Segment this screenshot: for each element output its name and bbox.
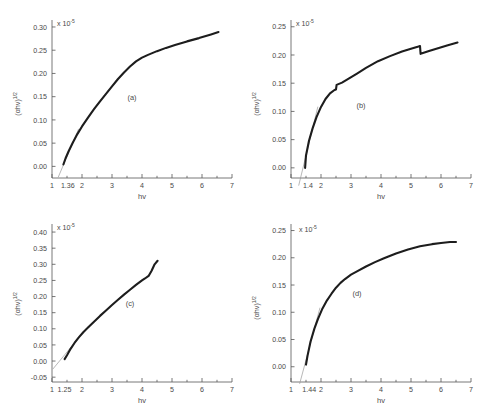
y-axis-title-c: (αhv)1/2 [12,292,22,316]
y-tick-label: 0.05 [33,342,47,350]
intercept-label-c: 1.25 [58,386,72,394]
panel-label-b: (b) [356,101,365,110]
y-tick-label: 0.40 [33,229,47,237]
x-ticks-c: 1234567 [50,378,234,394]
x-tick-label: 7 [230,182,234,190]
y-axis-title-a: (αhv)1/2 [12,92,22,116]
y-tick-label: 0.00 [272,164,286,172]
chart-svg-a: 0.000.050.100.150.200.250.30 1234567 x 1… [0,0,238,204]
chart-panel-d: 0.000.050.100.150.200.25 1234567 x 10-5 … [239,204,477,408]
y-tick-label: 0.10 [272,309,286,317]
x-ticks-d: 1234567 [289,378,473,394]
axes-d [291,224,471,382]
y-tick-label: 0.10 [272,108,286,116]
chart-panel-c: -0.050.000.050.100.150.200.250.300.350.4… [0,204,238,408]
data-curve-a [63,32,218,164]
intercept-label-b: 1.4 [303,182,313,190]
chart-svg-b: 0.000.050.100.150.200.25 1234567 x 10-5 … [239,0,477,204]
y-scale-exponent-c: x 10-5 [57,222,75,232]
y-tick-label: 0.15 [272,80,286,88]
x-tick-label: 4 [379,386,383,394]
x-axis-title-a: hv [138,192,146,201]
x-tick-label: 6 [439,386,443,394]
y-scale-exponent-d: x 10-5 [299,224,317,234]
y-tick-label: 0.00 [33,358,47,366]
y-tick-label: 0.25 [33,47,47,55]
y-axis-title-b: (αhv)1/2 [251,92,261,116]
x-tick-label: 2 [80,386,84,394]
y-tick-label: 0.25 [33,277,47,285]
x-tick-label: 3 [349,182,353,190]
data-curve-d [306,242,456,365]
y-axis-title-d: (αhv)1/2 [251,296,261,320]
x-tick-label: 6 [200,386,204,394]
x-tick-label: 4 [140,182,144,190]
x-tick-label: 1 [289,182,293,190]
x-tick-label: 1 [50,386,54,394]
y-tick-label: 0.20 [272,254,286,262]
x-tick-label: 3 [349,386,353,394]
y-tick-label: 0.15 [272,282,286,290]
x-tick-label: 2 [319,182,323,190]
y-tick-label: 0.10 [33,325,47,333]
x-tick-label: 7 [469,386,473,394]
y-tick-label: 0.15 [33,309,47,317]
data-curve-c [65,261,158,359]
chart-svg-c: -0.050.000.050.100.150.200.250.300.350.4… [0,204,238,408]
axes-b [291,20,471,178]
x-tick-label: 1 [289,386,293,394]
y-scale-exponent-a: x 10-5 [57,18,75,28]
y-tick-label: 0.05 [272,136,286,144]
x-axis-title-c: hv [138,396,146,405]
y-tick-label: 0.10 [33,117,47,125]
y-tick-label: 0.30 [33,24,47,32]
x-tick-label: 5 [409,386,413,394]
y-tick-label: 0.00 [33,163,47,171]
y-tick-label: 0.00 [272,363,286,371]
x-tick-label: 5 [409,182,413,190]
x-ticks-b: 1234567 [289,174,473,190]
y-tick-label: 0.05 [272,336,286,344]
chart-svg-d: 0.000.050.100.150.200.25 1234567 x 10-5 … [239,204,477,408]
x-ticks-a: 1234567 [50,174,234,190]
chart-panel-b: 0.000.050.100.150.200.25 1234567 x 10-5 … [239,0,477,204]
x-tick-label: 6 [439,182,443,190]
y-tick-label: 0.20 [33,293,47,301]
x-tick-label: 7 [230,386,234,394]
axes-c [52,224,232,382]
intercept-label-a: 1.36 [61,182,75,190]
chart-panel-a: 0.000.050.100.150.200.250.30 1234567 x 1… [0,0,238,204]
panel-label-c: (c) [126,299,135,308]
y-tick-label: 0.05 [33,140,47,148]
y-tick-label: 0.20 [33,70,47,78]
tauc-plot-figure: 0.000.050.100.150.200.250.30 1234567 x 1… [0,0,477,408]
y-tick-label: 0.25 [272,23,286,31]
x-tick-label: 2 [80,182,84,190]
x-tick-label: 4 [379,182,383,190]
x-tick-label: 3 [110,182,114,190]
x-tick-label: 2 [319,386,323,394]
x-tick-label: 5 [170,386,174,394]
x-tick-label: 7 [469,182,473,190]
x-tick-label: 5 [170,182,174,190]
y-scale-exponent-b: x 10-5 [296,18,314,28]
x-tick-label: 4 [140,386,144,394]
data-curve-b [305,43,457,168]
x-axis-title-b: hv [377,192,385,201]
x-tick-label: 1 [50,182,54,190]
panel-label-d: (d) [352,289,361,298]
y-tick-label: 0.25 [272,227,286,235]
intercept-label-d: 1.44 [302,386,316,394]
y-tick-label: 0.30 [33,261,47,269]
y-tick-label: 0.20 [272,52,286,60]
x-tick-label: 3 [110,386,114,394]
y-tick-label: -0.05 [31,374,47,382]
panel-label-a: (a) [127,93,136,102]
x-axis-title-d: hv [377,396,385,405]
y-tick-label: 0.35 [33,245,47,253]
y-tick-label: 0.15 [33,93,47,101]
axes-a [52,20,232,178]
x-tick-label: 6 [200,182,204,190]
